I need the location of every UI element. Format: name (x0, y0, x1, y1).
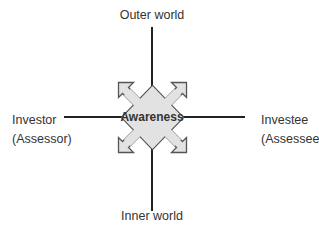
label-outer-world: Outer world (120, 8, 185, 22)
label-assessee: (Assessee) (261, 132, 319, 146)
label-assessor: (Assessor) (12, 132, 72, 146)
center-label: Awareness (120, 110, 183, 124)
label-inner-world: Inner world (121, 209, 183, 223)
label-investor: Investor (12, 113, 56, 127)
label-investee: Investee (261, 113, 308, 127)
